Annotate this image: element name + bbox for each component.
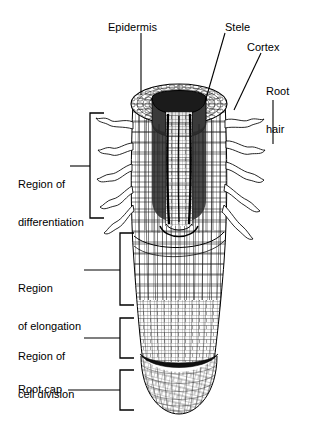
leader-cortex	[234, 53, 261, 110]
bracket-root-cap	[68, 370, 134, 410]
label-region-of-differentiation: Region of differentiation	[18, 153, 84, 253]
root-cap-structure	[138, 354, 220, 416]
label-stele: Stele	[225, 21, 250, 34]
label-epidermis: Epidermis	[108, 21, 157, 34]
label-root-hair-line1: Root	[266, 85, 289, 98]
label-root-cap: Root cap	[18, 383, 62, 396]
label-differentiation-line1: Region of	[18, 178, 84, 191]
root-diagram-figure: Epidermis Stele Cortex Root hair Region …	[0, 0, 310, 431]
label-differentiation-line2: differentiation	[18, 216, 84, 229]
label-cortex: Cortex	[247, 41, 279, 54]
bracket-elongation	[84, 233, 134, 305]
bracket-cell-division	[84, 318, 134, 358]
label-region-of-cell-division: Region of cell division	[18, 325, 74, 425]
label-cell-division-line1: Region of	[18, 350, 74, 363]
label-root-hair-line2: hair	[266, 123, 289, 136]
label-elongation-line1: Region	[18, 282, 81, 295]
label-root-hair: Root hair	[266, 60, 289, 160]
